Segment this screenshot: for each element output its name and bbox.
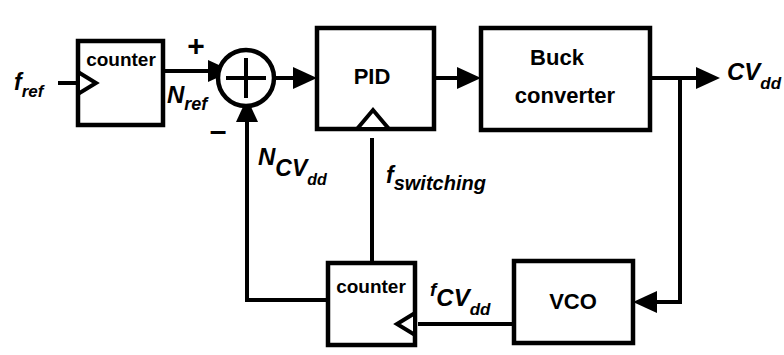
- block-diagram-canvas: counter PID Buck converter counter VCO: [0, 0, 784, 355]
- wire-counter-to-sum-negative: [236, 98, 328, 300]
- signal-n-cvdd-base: N: [258, 143, 276, 170]
- block-counter-reference-label: counter: [86, 49, 156, 70]
- control-loop-diagram: counter PID Buck converter counter VCO: [0, 0, 784, 355]
- signal-n-cvdd-sub: CV: [275, 155, 309, 181]
- sum-minus-sign: –: [210, 114, 227, 147]
- signal-n-ref-sub: ref: [184, 94, 209, 114]
- block-buck-converter-label-line1: Buck: [530, 45, 585, 70]
- signal-n-cvdd-sub2: dd: [307, 171, 328, 188]
- signal-label-n-cvdd: NCVdd: [258, 143, 328, 188]
- signal-cv-dd-sub: dd: [760, 74, 781, 93]
- svg-text:fCVdd: fCVdd: [430, 279, 491, 319]
- signal-f-cvdd-sub: CV: [436, 284, 471, 311]
- svg-text:fref: fref: [14, 69, 46, 101]
- signal-label-f-cvdd: fCVdd: [430, 279, 491, 319]
- signal-cv-dd-base: CV: [727, 58, 762, 85]
- signal-label-f-switching: fswitching: [386, 162, 486, 194]
- signal-label-cv-dd: CVdd: [727, 58, 782, 93]
- block-buck-converter-label-line2: converter: [515, 83, 616, 108]
- block-vco[interactable]: VCO: [514, 261, 633, 343]
- block-pid-label: PID: [354, 64, 391, 89]
- block-counter-feedback-label: counter: [336, 276, 406, 297]
- sum-plus-sign: +: [187, 29, 205, 62]
- svg-text:CVdd: CVdd: [727, 58, 782, 93]
- block-buck-converter[interactable]: Buck converter: [481, 28, 650, 130]
- block-pid[interactable]: PID: [317, 28, 434, 129]
- signal-f-cvdd-sub2: dd: [470, 300, 491, 319]
- signal-label-n-ref: Nref: [167, 81, 209, 114]
- svg-text:NCVdd: NCVdd: [258, 143, 328, 188]
- svg-text:fswitching: fswitching: [386, 162, 486, 194]
- block-counter-feedback[interactable]: counter: [328, 263, 415, 345]
- wire-sum-to-pid: [274, 67, 317, 89]
- signal-n-ref-base: N: [167, 81, 185, 108]
- wire-pid-to-buck: [434, 67, 481, 89]
- block-counter-reference[interactable]: counter: [78, 41, 163, 125]
- signal-f-ref-sub: ref: [22, 82, 46, 101]
- block-vco-label: VCO: [549, 289, 597, 314]
- signal-label-f-ref: fref: [14, 69, 46, 101]
- signal-f-switching-sub: switching: [394, 172, 486, 194]
- svg-text:Nref: Nref: [167, 81, 209, 114]
- summing-junction[interactable]: [218, 50, 274, 106]
